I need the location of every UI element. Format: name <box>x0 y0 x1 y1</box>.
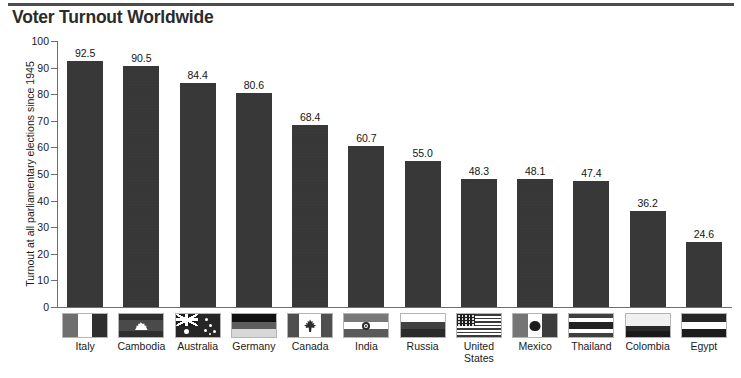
x-axis-category-label: India <box>338 341 394 353</box>
y-axis-tick-label-wrap: 100 <box>0 41 49 42</box>
x-axis-category: Canada <box>282 313 338 353</box>
bar-value-label: 80.6 <box>244 79 264 91</box>
x-axis-category: Mexico <box>507 313 563 353</box>
bar-slot: 90.5 <box>113 0 169 307</box>
bar-value-label: 48.1 <box>525 165 545 177</box>
flag-russia-icon <box>400 313 446 338</box>
x-axis-category-label: Thailand <box>563 341 619 353</box>
bar[interactable] <box>292 125 328 307</box>
bar-value-label: 84.4 <box>187 69 207 81</box>
flag-india-icon <box>343 313 389 338</box>
x-axis-category: Germany <box>226 313 282 353</box>
x-axis-category-label: Colombia <box>620 341 676 353</box>
y-axis-tick-label-wrap: 10 <box>0 280 49 281</box>
y-axis-tick-label-wrap: 40 <box>0 201 49 202</box>
bar-value-label: 68.4 <box>300 111 320 123</box>
y-axis-tick-label-wrap: 30 <box>0 227 49 228</box>
bar-value-label: 92.5 <box>75 47 95 59</box>
bar[interactable] <box>573 181 609 307</box>
bar-slot: 80.6 <box>226 0 282 307</box>
flag-mexico-icon <box>512 313 558 338</box>
flag-thailand-icon <box>568 313 614 338</box>
y-axis-tick-label: 50 <box>3 168 49 180</box>
bar-slot: 47.4 <box>563 0 619 307</box>
y-axis-tick-label: 0 <box>3 301 49 313</box>
x-axis-category: Russia <box>395 313 451 353</box>
y-axis-tick-label-wrap: 80 <box>0 94 49 95</box>
flag-canada-icon <box>287 313 333 338</box>
bar-slot: 55.0 <box>395 0 451 307</box>
y-axis-tick-label-wrap: 0 <box>0 307 49 308</box>
bar-value-label: 36.2 <box>637 197 657 209</box>
x-axis-line <box>57 307 732 308</box>
bar-slot: 84.4 <box>170 0 226 307</box>
bar[interactable] <box>461 179 497 307</box>
x-axis-category: UnitedStates <box>451 313 507 364</box>
x-axis-category: Australia <box>170 313 226 353</box>
y-axis-tick-label-wrap: 50 <box>0 174 49 175</box>
bar-slot: 92.5 <box>57 0 113 307</box>
bar-value-label: 60.7 <box>356 132 376 144</box>
y-axis-tick-label: 70 <box>3 115 49 127</box>
x-axis-category: Italy <box>57 313 113 353</box>
flag-colombia-icon <box>625 313 671 338</box>
bar[interactable] <box>348 146 384 307</box>
flag-italy-icon <box>62 313 108 338</box>
y-axis-tick-label: 10 <box>3 274 49 286</box>
x-axis-category-label: Canada <box>282 341 338 353</box>
y-axis-tick-label-wrap: 60 <box>0 147 49 148</box>
bar-value-label: 48.3 <box>469 165 489 177</box>
x-axis-category-label: Egypt <box>676 341 732 353</box>
bar-slot: 36.2 <box>620 0 676 307</box>
y-axis-tick-label: 90 <box>3 62 49 74</box>
y-axis-tick-label-wrap: 70 <box>0 121 49 122</box>
x-axis-category: Colombia <box>620 313 676 353</box>
x-axis-category-label: Russia <box>395 341 451 353</box>
bar-slot: 48.3 <box>451 0 507 307</box>
x-axis-category: Thailand <box>563 313 619 353</box>
bar[interactable] <box>67 61 103 307</box>
x-axis-category-label: Australia <box>170 341 226 353</box>
bar[interactable] <box>123 66 159 307</box>
x-axis-category-label: States <box>451 353 507 365</box>
bar-slot: 24.6 <box>676 0 732 307</box>
bar-value-label: 55.0 <box>412 147 432 159</box>
x-axis-category-label: Cambodia <box>113 341 169 353</box>
y-axis-tick-label: 20 <box>3 248 49 260</box>
bar-slot: 60.7 <box>338 0 394 307</box>
y-axis-tick <box>51 307 57 308</box>
x-axis-category-label: Mexico <box>507 341 563 353</box>
bar[interactable] <box>180 83 216 308</box>
flag-egypt-icon <box>681 313 727 338</box>
bar-value-label: 24.6 <box>694 228 714 240</box>
x-axis-category: Egypt <box>676 313 732 353</box>
x-axis-category-label: United <box>451 341 507 353</box>
bar[interactable] <box>630 211 666 307</box>
x-axis-category-label: Italy <box>57 341 113 353</box>
x-axis-category-label: Germany <box>226 341 282 353</box>
bar[interactable] <box>405 161 441 307</box>
bar-value-label: 90.5 <box>131 52 151 64</box>
flag-cambodia-icon <box>118 313 164 338</box>
bar[interactable] <box>517 179 553 307</box>
flag-australia-icon <box>175 313 221 338</box>
bar-value-label: 47.4 <box>581 167 601 179</box>
y-axis-tick-label: 40 <box>3 195 49 207</box>
x-axis-category: Cambodia <box>113 313 169 353</box>
bar-slot: 68.4 <box>282 0 338 307</box>
flag-united-states-icon <box>456 313 502 338</box>
bar[interactable] <box>236 93 272 307</box>
y-axis-tick-label-wrap: 90 <box>0 68 49 69</box>
x-axis-category: India <box>338 313 394 353</box>
y-axis-tick-label-wrap: 20 <box>0 254 49 255</box>
y-axis-tick-label: 30 <box>3 221 49 233</box>
bar[interactable] <box>686 242 722 307</box>
flag-germany-icon <box>231 313 277 338</box>
chart-figure: Voter Turnout Worldwide Turnout at all p… <box>0 0 741 378</box>
y-axis-tick-label: 80 <box>3 88 49 100</box>
bar-slot: 48.1 <box>507 0 563 307</box>
y-axis-tick-label: 60 <box>3 141 49 153</box>
y-axis-tick-label: 100 <box>3 35 49 47</box>
